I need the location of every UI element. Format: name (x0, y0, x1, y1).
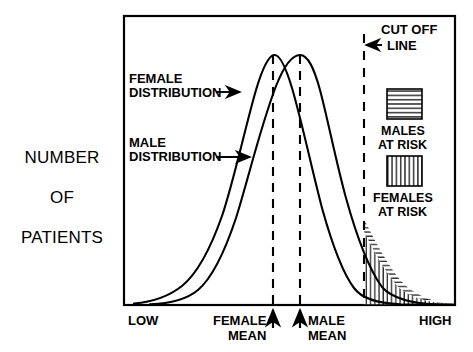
cutoff-label-line-1: CUT OFF (381, 22, 437, 37)
male-mean-label-line-2: MEAN (308, 328, 346, 343)
male-distribution-label-line-2: DISTRIBUTION (129, 149, 221, 164)
legend-label-males-line-1: MALES (381, 124, 425, 138)
x-axis-label-high: HIGH (419, 313, 452, 328)
male-mean-label-line-1: MALE (308, 313, 345, 328)
legend-label-females-line-2: AT RISK (378, 205, 427, 219)
female-distribution-label-line-1: FEMALE (129, 71, 183, 86)
distribution-chart: FEMALE DISTRIBUTION MALE DISTRIBUTION CU… (0, 0, 473, 352)
male-distribution-label-line-1: MALE (129, 135, 166, 150)
legend-swatch-males-at-risk (387, 89, 422, 119)
cutoff-label-line-2: LINE (387, 38, 417, 53)
female-mean-label-line-1: FEMALE (213, 313, 267, 328)
legend-label-females-line-1: FEMALES (373, 191, 433, 205)
legend-label-males-line-2: AT RISK (378, 138, 427, 152)
female-distribution-label-line-2: DISTRIBUTION (129, 85, 221, 100)
female-mean-label-line-2: MEAN (228, 328, 266, 343)
legend-swatch-females-at-risk (387, 156, 422, 186)
x-axis-label-low: LOW (128, 313, 159, 328)
legend-item-males-at-risk: MALES AT RISK (378, 89, 427, 152)
figure-root: NUMBER OF PATIENTS (0, 0, 473, 352)
legend-item-females-at-risk: FEMALES AT RISK (373, 156, 433, 219)
